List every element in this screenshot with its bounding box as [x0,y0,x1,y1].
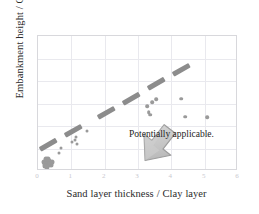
data-point [60,147,63,150]
data-point [206,115,210,119]
x-label-word: layer [185,188,206,199]
data-point [86,129,89,132]
plot-area: Potentially applicable. [37,35,237,170]
x-tick-label: 2 [102,172,106,180]
annotation-potentially-applicable: Potentially applicable. [129,129,214,139]
data-point [44,164,49,169]
x-label-word: layer [91,188,112,199]
gridline-horizontal [38,59,236,60]
x-label-word: thickness [115,188,154,199]
chart-figure: Embankment height / Clay layer thickness [0,0,259,214]
x-tick-label: 3 [135,172,139,180]
x-label-word: / [157,188,160,199]
data-point [146,104,150,108]
data-point [184,115,188,119]
data-point [148,113,152,117]
data-point [150,101,154,105]
gridline-horizontal [38,81,236,82]
data-point [57,152,60,155]
x-tick-label: 1 [69,172,73,180]
trend-dash-segment [38,138,57,152]
x-tick-label: 5 [202,172,206,180]
gridline-horizontal [38,104,236,105]
x-tick-label: 4 [169,172,173,180]
trend-dash-segment [97,105,116,119]
x-tick-label: 0 [35,172,39,180]
data-point [71,141,74,144]
x-tick-label: 6 [235,172,239,180]
x-label-word: Clay [163,188,183,199]
data-point [76,142,79,145]
trend-dash-segment [147,77,166,91]
data-point [75,135,78,138]
y-axis-label: Embankment height / Clay layer thickness [14,0,25,99]
trend-dash-segment [172,63,191,77]
data-point [74,138,77,141]
data-point [155,98,159,102]
x-axis-label: Sandlayerthickness/Claylayer [34,188,239,199]
data-point [50,160,55,165]
x-label-word: Sand [67,188,88,199]
data-point [180,97,184,101]
